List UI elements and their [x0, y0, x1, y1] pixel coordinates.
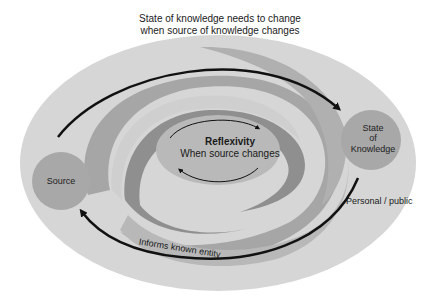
personal-public-label: Personal / public [346, 196, 426, 206]
reflexivity-title: Reflexivity [170, 136, 290, 148]
top-caption: State of knowledge needs to change when … [100, 13, 340, 36]
top-caption-line1: State of knowledge needs to change [100, 13, 340, 25]
state-of-knowledge-label: State of Knowledge [343, 123, 403, 154]
top-caption-line2: when source of knowledge changes [100, 25, 340, 37]
sok-line2: of [343, 133, 403, 143]
reflexivity-subtitle: When source changes [160, 148, 300, 160]
sok-line1: State [343, 123, 403, 133]
source-label: Source [36, 176, 86, 186]
sok-line3: Knowledge [343, 144, 403, 154]
